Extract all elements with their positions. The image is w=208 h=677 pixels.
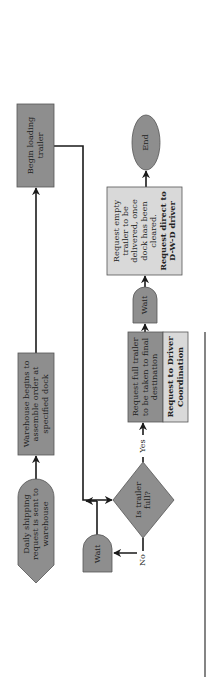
edge-label-no: No [137, 551, 149, 569]
node-request-empty-bold-label: Request direct to D-W-D driver [159, 189, 178, 273]
node-request-full-label: Request full trailer to be taken to fina… [128, 332, 163, 422]
node-end-label: End [132, 115, 160, 170]
node-wait-right-label: Wait [133, 287, 157, 323]
flowchart-canvas: Daily shipping request is sent to wareho… [0, 0, 208, 677]
node-wait-left-label: Wait [83, 536, 112, 572]
edge-label-yes: Yes [137, 435, 149, 457]
node-decision-label: Is trailer full? [126, 478, 160, 522]
edge-loading-to-decision [54, 146, 112, 500]
node-request-empty-label: Request empty trailer to be delivered, o… [112, 189, 159, 273]
node-request-empty-label-group: Request empty trailer to be delivered, o… [107, 187, 182, 275]
spacer [85, 501, 98, 535]
node-begin-loading-label: Begin loading trailer [17, 112, 54, 179]
node-driver-coordination-label: Request to Driver Coordination [163, 332, 188, 422]
node-warehouse-label: Warehouse begins to assemble order at sp… [18, 353, 54, 455]
node-daily-request-label: Daily shipping request is sent to wareho… [18, 481, 54, 567]
